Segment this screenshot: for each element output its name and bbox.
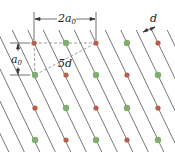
green-atom xyxy=(63,105,69,111)
lattice-plane-line xyxy=(167,30,175,152)
green-atom xyxy=(32,72,38,78)
green-atom xyxy=(124,40,130,46)
red-atom xyxy=(124,72,129,77)
label-2a0: 2a0 xyxy=(57,12,77,26)
lattice-plane-line xyxy=(28,30,87,152)
lattice-plane-line xyxy=(12,30,71,152)
lattice-plane-line xyxy=(0,30,55,152)
green-atom xyxy=(93,137,99,143)
green-atom xyxy=(124,105,130,111)
red-atom xyxy=(155,105,160,110)
red-atom xyxy=(63,137,68,142)
label-d: d xyxy=(150,12,157,25)
lattice-planes xyxy=(0,30,175,152)
lattice-diagram: 2a0 a0 5d d xyxy=(0,0,175,155)
lattice-plane-line xyxy=(136,30,175,152)
green-atom xyxy=(32,137,38,143)
green-atom xyxy=(155,72,161,78)
red-atom xyxy=(63,72,68,77)
lattice-plane-line xyxy=(121,30,175,152)
red-atom xyxy=(155,40,160,45)
lattice-plane-line xyxy=(59,30,118,152)
green-atom xyxy=(63,40,69,46)
label-a0: a0 xyxy=(11,53,23,67)
lattice-plane-line xyxy=(74,30,133,152)
red-atom xyxy=(31,40,36,45)
label-5d: 5d xyxy=(58,57,72,70)
green-atom xyxy=(155,137,161,143)
lattice-plane-line xyxy=(105,30,164,152)
atoms xyxy=(31,40,161,143)
lattice-plane-line xyxy=(90,30,149,152)
lattice-plane-line xyxy=(43,30,102,152)
green-atom xyxy=(93,72,99,78)
red-atom xyxy=(93,105,98,110)
red-atom xyxy=(32,105,37,110)
red-atom xyxy=(93,40,98,45)
lattice-plane-line xyxy=(0,30,9,152)
red-atom xyxy=(124,137,129,142)
